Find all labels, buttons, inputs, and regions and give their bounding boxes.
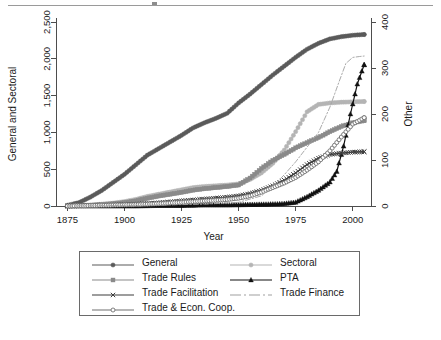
legend-entry-trade-rules[interactable]: Trade Rules xyxy=(90,272,196,284)
y-tick-label-left-2500: 2,500 xyxy=(41,10,52,34)
legend-marker-cross-icon xyxy=(90,287,136,299)
x-tick-label-2000: 2000 xyxy=(342,214,363,225)
y-tick-label-right-0: 0 xyxy=(379,203,390,208)
legend-marker-filled-square-icon xyxy=(90,272,136,284)
y-tick-label-right-100: 100 xyxy=(379,152,390,168)
legend-label: Trade Facilitation xyxy=(136,287,218,299)
x-tick-label-1975: 1975 xyxy=(285,214,306,225)
x-tick-label-1900: 1900 xyxy=(114,214,135,225)
legend-marker-filled-circle-icon xyxy=(90,257,136,269)
y-axis-right-title: Other xyxy=(403,101,414,127)
series-trade-rules xyxy=(65,119,366,208)
series-sectoral xyxy=(65,99,366,208)
figure-container: 05001,0001,5002,0002,5000100200300400187… xyxy=(0,0,441,340)
legend-marker-open-circle-icon xyxy=(90,302,136,314)
x-tick-label-1950: 1950 xyxy=(228,214,249,225)
legend-entry-pta[interactable]: PTA xyxy=(228,272,299,284)
legend-label: Trade & Econ. Coop. xyxy=(136,302,235,314)
x-axis-title: Year xyxy=(203,231,224,242)
legend-grid: GeneralSectoralTrade RulesPTATrade Facil… xyxy=(80,252,359,315)
legend-entry-trade-finance[interactable]: Trade Finance xyxy=(228,287,344,299)
y-tick-label-left-500: 500 xyxy=(41,161,52,177)
legend-label: Sectoral xyxy=(274,257,317,269)
legend-marker-filled-circle-light-icon xyxy=(228,257,274,269)
y-tick-label-right-200: 200 xyxy=(379,106,390,122)
y-axis-left-title: General and Sectoral xyxy=(7,67,18,162)
legend-label: General xyxy=(136,257,178,269)
legend-entry-general[interactable]: General xyxy=(90,257,178,269)
x-tick-label-1925: 1925 xyxy=(171,214,192,225)
legend-marker-none-icon xyxy=(228,287,274,299)
y-tick-label-right-300: 300 xyxy=(379,60,390,76)
y-tick-label-left-0: 0 xyxy=(41,203,52,208)
x-tick-label-1875: 1875 xyxy=(57,214,78,225)
legend-label: Trade Rules xyxy=(136,272,196,284)
legend-entry-sectoral[interactable]: Sectoral xyxy=(228,257,317,269)
chart-legend: GeneralSectoralTrade RulesPTATrade Facil… xyxy=(79,251,360,316)
legend-marker-filled-triangle-icon xyxy=(228,272,274,284)
y-tick-label-left-1500: 1,500 xyxy=(41,84,52,108)
legend-label: Trade Finance xyxy=(274,287,344,299)
y-tick-label-right-400: 400 xyxy=(379,14,390,30)
legend-entry-trade-facilitation[interactable]: Trade Facilitation xyxy=(90,287,218,299)
y-tick-label-left-2000: 2,000 xyxy=(41,47,52,71)
series-general xyxy=(65,32,366,207)
legend-label: PTA xyxy=(274,272,299,284)
series-trade-econ-coop xyxy=(65,116,366,208)
y-tick-label-left-1000: 1,000 xyxy=(41,121,52,145)
legend-entry-trade-econ-coop[interactable]: Trade & Econ. Coop. xyxy=(90,302,235,314)
